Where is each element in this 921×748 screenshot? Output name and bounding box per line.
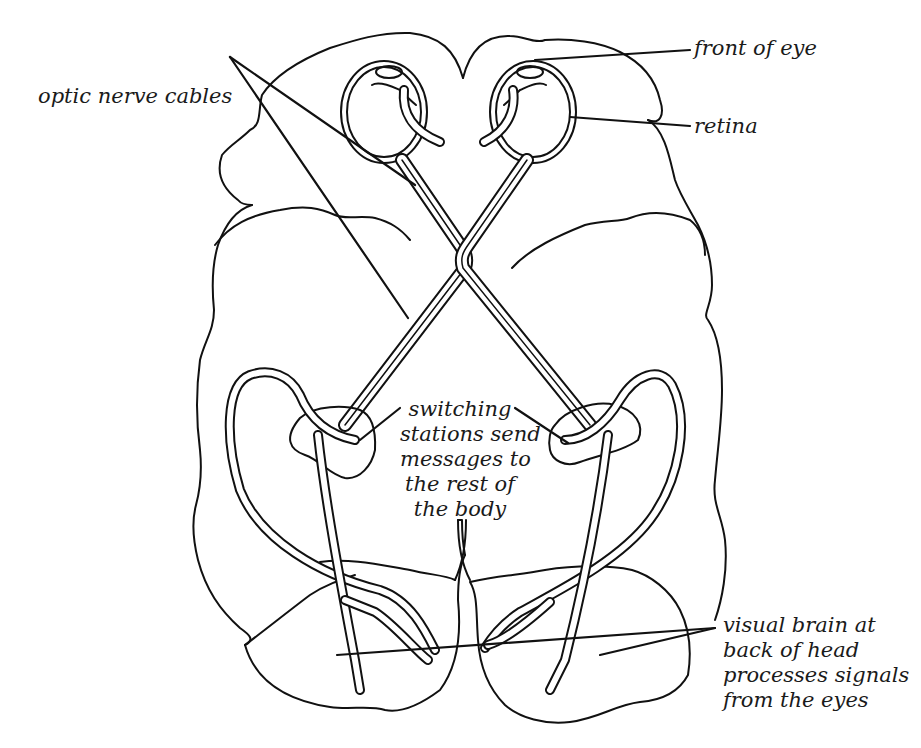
optic-nerves: [345, 160, 590, 425]
label-retina: retina: [694, 114, 758, 139]
leader-optic-nerve-lower: [230, 57, 408, 318]
visual-brain-line-4: from the eyes: [723, 688, 909, 713]
switching-line-1: switching: [400, 397, 520, 422]
switching-line-5: the body: [400, 497, 520, 522]
leader-front-of-eye: [535, 50, 690, 60]
visual-brain-line-2: back of head: [723, 638, 909, 663]
leader-lines: [230, 50, 715, 655]
switching-line-2: stations send: [400, 422, 520, 447]
left-switching-station: [290, 407, 375, 478]
label-switching-stations: switching stations send messages to the …: [400, 397, 520, 522]
label-visual-brain: visual brain at back of head processes s…: [723, 613, 909, 713]
leader-retina: [570, 117, 690, 126]
visual-brain-line-3: processes signals: [723, 663, 909, 688]
right-eyeball: [484, 61, 576, 163]
left-eyeball: [341, 61, 440, 163]
visual-brain-line-1: visual brain at: [723, 613, 909, 638]
switching-line-3: messages to: [400, 447, 520, 472]
switching-line-4: the rest of: [400, 472, 520, 497]
label-front-of-eye: front of eye: [694, 36, 817, 61]
label-optic-nerve-cables: optic nerve cables: [38, 84, 232, 109]
